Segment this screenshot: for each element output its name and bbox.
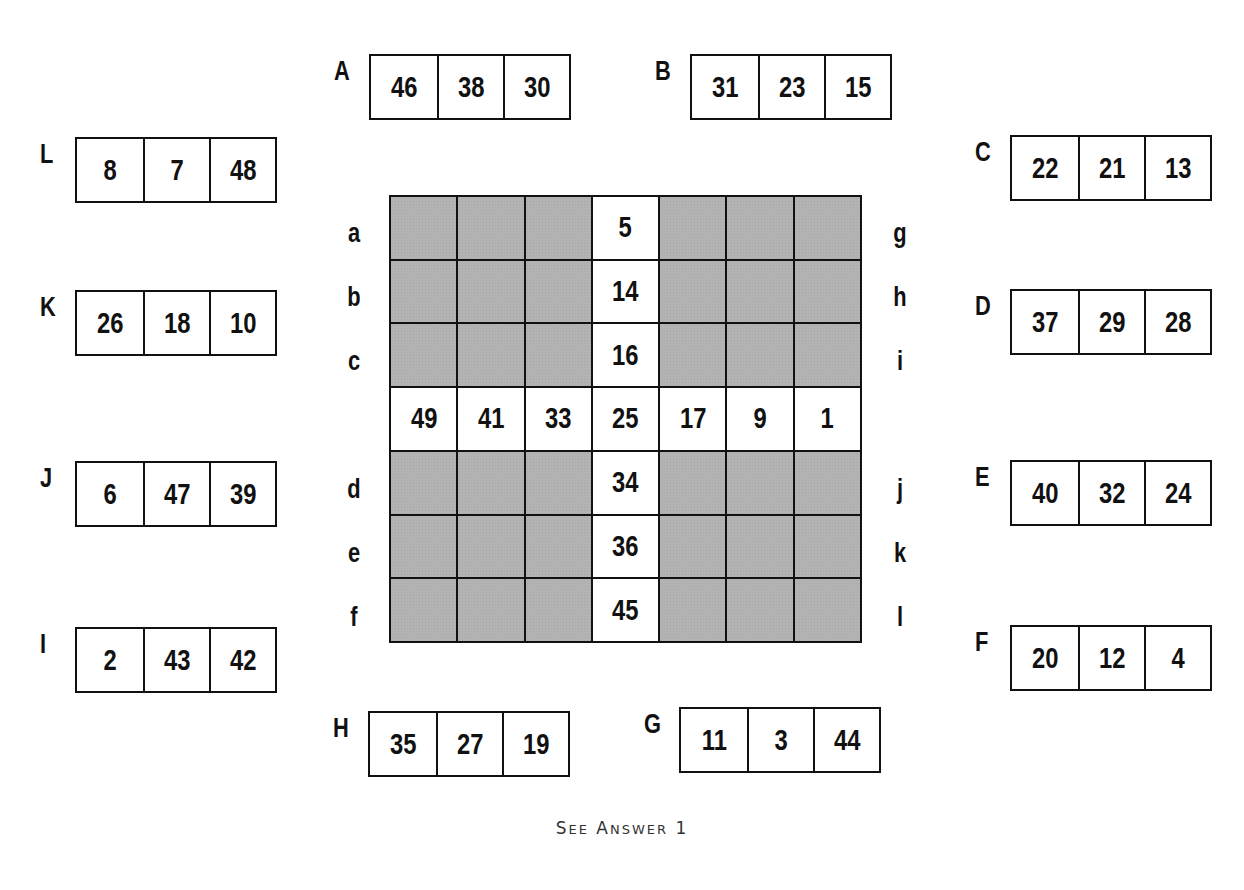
clue-number: 38 <box>458 71 484 104</box>
row-label-a: a <box>346 219 362 247</box>
clue-number: 28 <box>1165 306 1191 339</box>
grid-number: 25 <box>612 402 638 435</box>
answer-reference-caption: SEE ANSWER 1 <box>0 818 1244 838</box>
grid-cell-shaded <box>660 516 725 578</box>
clue-cell: 24 <box>1144 462 1210 524</box>
grid-cell-shaded <box>391 261 456 323</box>
clue-cell: 42 <box>209 629 275 691</box>
grid-cell-shaded <box>458 197 523 259</box>
clue-label-j: J <box>40 464 52 492</box>
row-label-l: l <box>892 603 908 631</box>
clue-number: 15 <box>845 71 871 104</box>
grid-cell-shaded <box>727 324 792 386</box>
clue-number: 40 <box>1032 477 1058 510</box>
clue-number: 43 <box>164 644 190 677</box>
grid-number: 34 <box>612 466 638 499</box>
grid-cell-shaded <box>458 261 523 323</box>
clue-cell: 38 <box>437 56 503 118</box>
grid-cell-shaded <box>526 579 591 641</box>
clue-label-l: L <box>40 140 53 168</box>
row-label-i: i <box>892 347 908 375</box>
grid-cell-open: 33 <box>526 388 591 450</box>
clue-number: 31 <box>712 71 738 104</box>
clue-cell: 8 <box>77 139 143 201</box>
grid-cell-shaded <box>795 452 860 514</box>
clue-number: 6 <box>103 478 116 511</box>
clue-cell: 40 <box>1012 462 1078 524</box>
clue-number: 42 <box>230 644 256 677</box>
grid-cell-open: 16 <box>593 324 658 386</box>
clue-box-i: 24342 <box>75 627 277 693</box>
clue-number: 22 <box>1032 152 1058 185</box>
grid-cell-shaded <box>660 197 725 259</box>
clue-number: 23 <box>779 71 805 104</box>
grid-cell-shaded <box>660 579 725 641</box>
grid-cell-shaded <box>458 452 523 514</box>
clue-number: 7 <box>170 154 183 187</box>
clue-cell: 3 <box>747 709 813 771</box>
caption-number: 1 <box>675 818 688 838</box>
clue-number: 11 <box>701 724 726 757</box>
clue-cell: 29 <box>1078 291 1144 353</box>
clue-cell: 6 <box>77 463 143 525</box>
clue-cell: 23 <box>758 56 824 118</box>
clue-label-c: C <box>975 138 991 166</box>
grid-cell-shaded <box>727 579 792 641</box>
clue-number: 46 <box>391 71 417 104</box>
grid-cell-open: 25 <box>593 388 658 450</box>
grid-cell-shaded <box>458 516 523 578</box>
clue-box-d: 372928 <box>1010 289 1212 355</box>
grid-cell-shaded <box>458 579 523 641</box>
clue-cell: 12 <box>1078 627 1144 689</box>
clue-number: 13 <box>1165 152 1191 185</box>
grid-cell-shaded <box>727 452 792 514</box>
row-label-h: h <box>892 283 908 311</box>
clue-cell: 18 <box>143 292 209 354</box>
clue-label-b: B <box>655 57 671 85</box>
grid-cell-shaded <box>795 579 860 641</box>
clue-number: 35 <box>390 728 416 761</box>
grid-cell-open: 17 <box>660 388 725 450</box>
clue-label-g: G <box>644 710 661 738</box>
grid-cell-shaded <box>391 579 456 641</box>
clue-cell: 37 <box>1012 291 1078 353</box>
clue-number: 44 <box>834 724 860 757</box>
clue-number: 29 <box>1099 306 1125 339</box>
clue-number: 12 <box>1099 642 1125 675</box>
grid-number: 45 <box>612 594 638 627</box>
clue-box-f: 20124 <box>1010 625 1212 691</box>
grid-cell-shaded <box>727 197 792 259</box>
clue-cell: 47 <box>143 463 209 525</box>
clue-label-e: E <box>975 463 990 491</box>
grid-cell-shaded <box>391 197 456 259</box>
row-label-d: d <box>346 475 362 503</box>
grid-cell-shaded <box>795 324 860 386</box>
row-label-f: f <box>346 603 362 631</box>
grid-cell-shaded <box>660 324 725 386</box>
grid-cell-open: 14 <box>593 261 658 323</box>
grid-cell-shaded <box>727 261 792 323</box>
grid-cell-open: 49 <box>391 388 456 450</box>
grid-cell-shaded <box>795 516 860 578</box>
puzzle-grid: 51416494133251791343645 <box>389 195 862 643</box>
clue-number: 27 <box>457 728 483 761</box>
clue-cell: 2 <box>77 629 143 691</box>
clue-number: 19 <box>523 728 549 761</box>
clue-box-l: 8748 <box>75 137 277 203</box>
clue-cell: 10 <box>209 292 275 354</box>
clue-label-f: F <box>975 628 988 656</box>
caption-rest-1: EE <box>569 822 589 837</box>
clue-cell: 43 <box>143 629 209 691</box>
clue-cell: 11 <box>681 709 747 771</box>
clue-cell: 46 <box>371 56 437 118</box>
grid-number: 41 <box>478 402 504 435</box>
clue-number: 48 <box>230 154 256 187</box>
row-label-k: k <box>892 539 908 567</box>
grid-cell-open: 9 <box>727 388 792 450</box>
clue-cell: 7 <box>143 139 209 201</box>
clue-cell: 21 <box>1078 137 1144 199</box>
clue-label-d: D <box>975 292 991 320</box>
grid-cell-open: 41 <box>458 388 523 450</box>
clue-cell: 48 <box>209 139 275 201</box>
grid-number: 14 <box>612 275 638 308</box>
